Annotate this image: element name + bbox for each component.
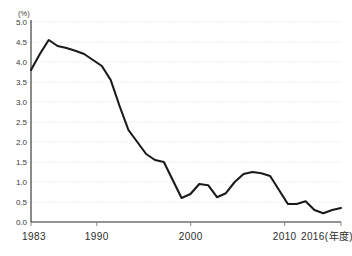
- y-tick-label: 2.5: [16, 118, 28, 127]
- y-tick-label: 1.5: [16, 158, 28, 167]
- x-tick-label: 2000: [179, 231, 203, 242]
- y-tick-label: 4.0: [16, 58, 28, 67]
- y-tick-label: 3.5: [16, 78, 28, 87]
- y-tick-label: 2.0: [16, 138, 28, 147]
- x-tickmarks: [31, 222, 341, 226]
- y-tick-label: 4.5: [16, 38, 28, 47]
- x-tick-label: 2010: [273, 231, 297, 242]
- y-tick-label: 1.0: [16, 178, 28, 187]
- y-tick-label: 3.0: [16, 98, 28, 107]
- chart-container: 5.04.54.03.53.02.52.01.51.00.50.0 198319…: [0, 0, 352, 256]
- line-chart: 5.04.54.03.53.02.52.01.51.00.50.0 198319…: [0, 0, 352, 256]
- y-tick-label: 5.0: [16, 18, 28, 27]
- x-tick-label: 1983: [22, 231, 46, 242]
- gridlines: [31, 22, 341, 202]
- y-tick-label: 0.5: [16, 198, 28, 207]
- y-tick-label: 0.0: [16, 218, 28, 227]
- data-series-line: [31, 40, 341, 213]
- y-axis-unit-label: (%): [18, 9, 30, 18]
- x-tick-label: 1990: [85, 231, 109, 242]
- y-tick-labels: 5.04.54.03.53.02.52.01.51.00.50.0: [16, 18, 28, 227]
- x-tick-labels: 19831990200020102016(年度): [22, 230, 352, 242]
- axes: [31, 20, 341, 222]
- x-tick-label: 2016(年度): [301, 230, 352, 242]
